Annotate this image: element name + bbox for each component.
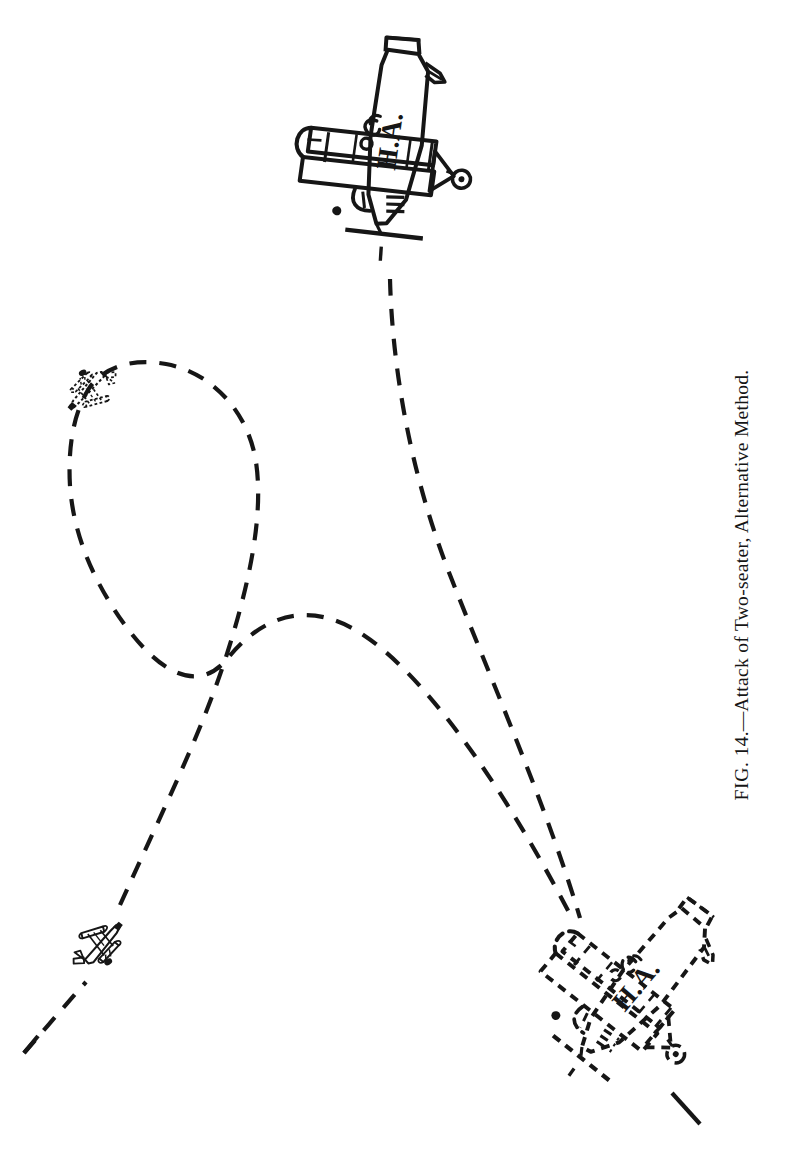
- attacking-fighter-initial: [62, 912, 137, 980]
- attacker-flight-path-loop: [70, 362, 574, 922]
- hostile-aircraft-flight-path: [390, 279, 580, 918]
- hostile-path-exit-fragment: [672, 1093, 700, 1124]
- figure-illustration: H.A.: [0, 0, 794, 1170]
- attacker-path-tail-fragment: [24, 1036, 38, 1053]
- path-end-fragments: [24, 1036, 700, 1124]
- hostile-two-seater-later: [491, 849, 765, 1129]
- hostile-two-seater-initial: [282, 25, 489, 271]
- figure-page: H.A.: [0, 0, 794, 1170]
